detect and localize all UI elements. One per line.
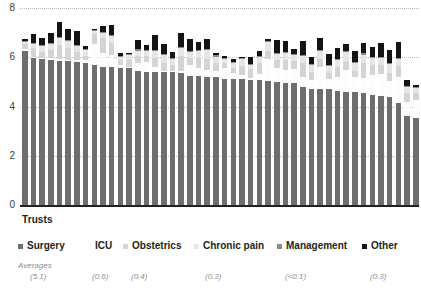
- bar-trust-40[interactable]: [361, 0, 367, 205]
- bar-segment-surgery: [404, 116, 410, 205]
- bar-segment-other: [317, 38, 323, 50]
- bar-segment-obstetrics: [248, 69, 254, 78]
- bar-trust-34[interactable]: [309, 0, 315, 205]
- legend-swatch-icon: [86, 244, 91, 249]
- bar-trust-21[interactable]: [196, 0, 202, 205]
- bar-segment-other: [309, 57, 315, 64]
- bar-segment-surgery: [100, 67, 106, 205]
- bar-trust-42[interactable]: [378, 0, 384, 205]
- bar-segment-surgery: [57, 61, 63, 205]
- bar-segment-obstetrics: [309, 72, 315, 80]
- bar-segment-other: [387, 50, 393, 63]
- legend-item-management[interactable]: Management: [277, 240, 347, 252]
- bar-segment-surgery: [283, 83, 289, 205]
- bar-segment-other: [343, 44, 349, 51]
- bar-segment-icu: [370, 75, 376, 95]
- bar-trust-19[interactable]: [178, 0, 184, 205]
- bar-segment-surgery: [387, 97, 393, 205]
- bar-trust-36[interactable]: [326, 0, 332, 205]
- bar-trust-28[interactable]: [257, 0, 263, 205]
- legend-item-obstetrics[interactable]: Obstetrics: [123, 240, 181, 252]
- bar-trust-44[interactable]: [396, 0, 402, 205]
- bar-segment-surgery: [343, 92, 349, 205]
- legend-swatch-icon: [194, 244, 199, 249]
- bar-segment-obstetrics: [396, 66, 402, 77]
- bar-trust-29[interactable]: [265, 0, 271, 205]
- bar-segment-other: [109, 25, 115, 35]
- bar-segment-obstetrics: [283, 60, 289, 70]
- bar-trust-26[interactable]: [239, 0, 245, 205]
- bar-trust-10[interactable]: [100, 0, 106, 205]
- bar-segment-obstetrics: [300, 63, 306, 77]
- bar-segment-surgery: [22, 51, 28, 205]
- bar-trust-13[interactable]: [126, 0, 132, 205]
- bar-trust-14[interactable]: [135, 0, 141, 205]
- bar-trust-6[interactable]: [65, 0, 71, 205]
- bar-segment-icu: [378, 74, 384, 96]
- legend-average-obstetrics: (0.4): [131, 272, 147, 281]
- bar-trust-2[interactable]: [31, 0, 37, 205]
- legend-item-chronic-pain[interactable]: Chronic pain: [194, 240, 264, 252]
- bar-segment-obstetrics: [48, 50, 54, 59]
- bar-trust-1[interactable]: [22, 0, 28, 205]
- bar-trust-5[interactable]: [57, 0, 63, 205]
- bar-segment-icu: [92, 44, 98, 65]
- bar-trust-11[interactable]: [109, 0, 115, 205]
- bar-segment-obstetrics: [213, 63, 219, 72]
- legend-swatch-icon: [123, 244, 128, 249]
- bar-trust-24[interactable]: [222, 0, 228, 205]
- bar-segment-chronic-pain: [370, 58, 376, 65]
- bar-trust-12[interactable]: [118, 0, 124, 205]
- bar-trust-20[interactable]: [187, 0, 193, 205]
- bar-segment-obstetrics: [100, 38, 106, 53]
- bar-segment-obstetrics: [31, 48, 37, 57]
- bar-segment-other: [274, 40, 280, 54]
- bar-segment-icu: [352, 77, 358, 92]
- bar-segment-icu: [222, 68, 228, 79]
- bar-segment-obstetrics: [370, 65, 376, 75]
- bar-trust-8[interactable]: [83, 0, 89, 205]
- bar-segment-chronic-pain: [396, 59, 402, 66]
- bar-segment-chronic-pain: [57, 38, 63, 45]
- bar-segment-surgery: [92, 65, 98, 205]
- legend-item-icu[interactable]: ICU: [86, 240, 112, 252]
- bar-segment-other: [57, 22, 63, 37]
- bar-trust-33[interactable]: [300, 0, 306, 205]
- bar-trust-25[interactable]: [231, 0, 237, 205]
- legend-item-surgery[interactable]: Surgery: [18, 240, 65, 252]
- bar-segment-obstetrics: [178, 56, 184, 71]
- bar-trust-31[interactable]: [283, 0, 289, 205]
- bar-trust-23[interactable]: [213, 0, 219, 205]
- bar-trust-46[interactable]: [413, 0, 419, 205]
- bar-trust-9[interactable]: [92, 0, 98, 205]
- bar-trust-18[interactable]: [170, 0, 176, 205]
- legend-item-other[interactable]: Other: [362, 240, 398, 252]
- bar-trust-27[interactable]: [248, 0, 254, 205]
- bar-segment-chronic-pain: [178, 48, 184, 55]
- bar-trust-22[interactable]: [204, 0, 210, 205]
- bar-segment-surgery: [187, 76, 193, 205]
- bar-trust-45[interactable]: [404, 0, 410, 205]
- bar-trust-16[interactable]: [152, 0, 158, 205]
- bar-trust-3[interactable]: [39, 0, 45, 205]
- bar-trust-32[interactable]: [291, 0, 297, 205]
- bar-segment-surgery: [231, 79, 237, 205]
- bar-trust-17[interactable]: [161, 0, 167, 205]
- bar-segment-surgery: [170, 72, 176, 205]
- bar-trust-38[interactable]: [343, 0, 349, 205]
- bar-segment-obstetrics: [109, 43, 115, 56]
- bar-trust-43[interactable]: [387, 0, 393, 205]
- bar-trust-41[interactable]: [370, 0, 376, 205]
- bar-trust-15[interactable]: [144, 0, 150, 205]
- bar-segment-icu: [231, 73, 237, 80]
- bar-segment-surgery: [370, 95, 376, 205]
- bar-segment-surgery: [213, 77, 219, 205]
- bar-segment-chronic-pain: [204, 50, 210, 59]
- bar-trust-30[interactable]: [274, 0, 280, 205]
- bar-trust-37[interactable]: [335, 0, 341, 205]
- bar-trust-35[interactable]: [317, 0, 323, 205]
- bar-trust-7[interactable]: [74, 0, 80, 205]
- bar-trust-4[interactable]: [48, 0, 54, 205]
- bar-trust-39[interactable]: [352, 0, 358, 205]
- bar-segment-obstetrics: [135, 56, 141, 63]
